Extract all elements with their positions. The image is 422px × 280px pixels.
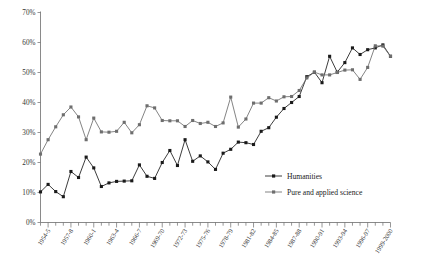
data-point-marker: [305, 76, 308, 79]
data-point-marker: [54, 190, 57, 193]
data-point-marker: [275, 116, 278, 119]
data-point-marker: [100, 185, 103, 188]
data-point-marker: [92, 166, 95, 169]
data-point-marker: [381, 45, 384, 48]
legend-label: Pure and applied science: [287, 188, 363, 197]
data-point-marker: [244, 141, 247, 144]
data-point-marker: [275, 99, 278, 102]
y-axis-tick-label: 40%: [22, 99, 35, 107]
series-pure-and-applied-science: [39, 44, 392, 155]
data-point-marker: [184, 138, 187, 141]
data-point-marker: [47, 183, 50, 186]
data-point-marker: [237, 141, 240, 144]
x-axis-tick-label: 1996-97: [354, 227, 372, 249]
x-axis-tick-label: 1978-79: [217, 227, 234, 249]
data-point-marker: [244, 117, 247, 120]
data-point-marker: [115, 180, 118, 183]
data-point-marker: [115, 130, 118, 133]
data-point-marker: [168, 119, 171, 122]
data-point-marker: [214, 125, 217, 128]
data-point-marker: [328, 73, 331, 76]
data-point-marker: [39, 190, 42, 193]
data-point-marker: [123, 121, 126, 124]
data-point-marker: [77, 115, 80, 118]
data-point-marker: [107, 131, 110, 134]
data-point-marker: [130, 179, 133, 182]
data-point-marker: [62, 195, 65, 198]
y-axis-tick-label: 60%: [22, 39, 35, 47]
x-axis-tick-label: 1957-8: [59, 227, 75, 246]
data-point-marker: [298, 95, 301, 98]
y-axis-tick-label: 50%: [22, 69, 35, 77]
legend-group: HumanitiesPure and applied science: [265, 172, 363, 197]
data-point-marker: [69, 170, 72, 173]
data-point-marker: [206, 160, 209, 163]
x-axis-tick-label: 1984-85: [262, 227, 279, 249]
data-point-marker: [214, 168, 217, 171]
data-point-marker: [222, 152, 225, 155]
data-point-marker: [389, 55, 392, 58]
data-point-marker: [320, 73, 323, 76]
data-point-marker: [320, 81, 323, 84]
data-point-marker: [260, 102, 263, 105]
data-point-marker: [359, 78, 362, 81]
data-point-marker: [176, 119, 179, 122]
line-chart: 0%10%20%30%40%50%60%70%1954-51957-81960-…: [0, 0, 422, 280]
data-point-marker: [267, 126, 270, 129]
data-point-marker: [39, 153, 42, 156]
data-point-marker: [298, 89, 301, 92]
data-point-marker: [328, 55, 331, 58]
data-point-marker: [267, 96, 270, 99]
data-point-marker: [54, 125, 57, 128]
data-point-marker: [69, 105, 72, 108]
x-axis-tick-label: 1963-4: [104, 227, 120, 247]
data-point-marker: [107, 181, 110, 184]
data-point-marker: [145, 104, 148, 107]
data-point-marker: [290, 101, 293, 104]
data-point-marker: [168, 149, 171, 152]
data-point-marker: [290, 95, 293, 98]
data-point-marker: [229, 96, 232, 99]
data-point-marker: [351, 46, 354, 49]
x-axis-tick-label: 1972-73: [171, 227, 188, 249]
chart-container: 0%10%20%30%40%50%60%70%1954-51957-81960-…: [0, 0, 422, 280]
data-point-marker: [191, 119, 194, 122]
data-point-marker: [282, 107, 285, 110]
x-axis-tick-label: 1999-2000: [373, 227, 394, 254]
data-point-marker: [184, 125, 187, 128]
data-point-marker: [145, 175, 148, 178]
data-point-marker: [359, 53, 362, 56]
data-point-marker: [191, 160, 194, 163]
data-point-marker: [199, 122, 202, 125]
data-point-marker: [161, 161, 164, 164]
data-point-marker: [138, 163, 141, 166]
data-point-marker: [366, 48, 369, 51]
data-point-marker: [229, 148, 232, 151]
data-point-marker: [100, 130, 103, 133]
x-axis-tick-label: 1954-5: [36, 227, 52, 246]
data-point-marker: [199, 154, 202, 157]
data-point-marker: [47, 138, 50, 141]
y-axis-tick-label: 10%: [22, 189, 35, 197]
data-point-marker: [343, 69, 346, 72]
data-point-marker: [366, 66, 369, 69]
data-point-marker: [222, 121, 225, 124]
data-point-marker: [85, 156, 88, 159]
data-point-marker: [260, 130, 263, 133]
data-point-marker: [206, 121, 209, 124]
x-axis-tick-label: 1966-7: [127, 227, 143, 247]
data-point-marker: [123, 180, 126, 183]
data-point-marker: [351, 68, 354, 71]
x-axis-tick-label: 1993-94: [331, 227, 349, 249]
y-axis-tick-label: 30%: [22, 129, 35, 137]
legend-marker-swatch: [272, 190, 275, 193]
data-point-marker: [336, 71, 339, 74]
series-line: [41, 46, 391, 154]
data-point-marker: [313, 71, 316, 74]
data-point-marker: [237, 126, 240, 129]
legend-label: Humanities: [287, 172, 322, 181]
data-point-marker: [85, 138, 88, 141]
data-point-marker: [161, 119, 164, 122]
y-axis-tick-label: 0%: [26, 219, 36, 227]
data-point-marker: [252, 102, 255, 105]
